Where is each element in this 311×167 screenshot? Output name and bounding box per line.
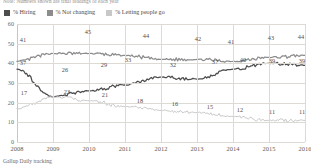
gridline-vertical — [269, 24, 270, 142]
data-point-label: 44 — [298, 34, 304, 40]
data-point-label: 29 — [101, 62, 107, 68]
y-axis-tick-label: 20 — [1, 100, 14, 106]
source-note: Gallup Daily tracking — [3, 157, 52, 165]
x-axis-tick-label: 2016 — [290, 145, 311, 152]
legend-swatch-hiring — [4, 10, 10, 16]
data-point-label: 17 — [21, 90, 27, 96]
data-point-label: 42 — [195, 36, 201, 42]
legend-label-not-changing: % Not changing — [56, 9, 96, 16]
legend-item-hiring: % Hiring — [4, 9, 36, 16]
data-point-label: 39 — [299, 58, 305, 64]
y-axis-tick-label: 30 — [1, 80, 14, 86]
plot-area — [17, 24, 305, 142]
gridline-horizontal — [17, 142, 305, 143]
y-axis-tick-label: 10 — [1, 119, 14, 125]
gridline-vertical — [125, 24, 126, 142]
gridline-vertical — [305, 24, 306, 142]
data-point-label: 37 — [212, 59, 218, 65]
x-axis-tick-label: 2011 — [110, 145, 140, 152]
data-point-label: 26 — [62, 67, 68, 73]
data-point-label: 16 — [172, 101, 178, 107]
legend-item-letting-go: % Letting people go — [106, 9, 165, 16]
y-axis-tick-label: 60 — [1, 21, 14, 27]
data-point-label: 44 — [143, 33, 149, 39]
data-point-label: 37 — [20, 60, 26, 66]
y-axis-tick-label: 50 — [1, 41, 14, 47]
data-point-label: 11 — [299, 109, 305, 115]
data-point-label: 39 — [269, 58, 275, 64]
chart-container: Note: Numbers shown are final readings o… — [0, 0, 311, 167]
chart-note: Note: Numbers shown are final readings o… — [3, 0, 303, 5]
legend-label-letting-go: % Letting people go — [115, 9, 165, 16]
x-axis-tick-label: 2013 — [182, 145, 212, 152]
x-axis-tick-label: 2012 — [146, 145, 176, 152]
gridline-vertical — [53, 24, 54, 142]
gridline-vertical — [161, 24, 162, 142]
data-point-label: 41 — [228, 39, 234, 45]
data-point-label: 12 — [237, 107, 243, 113]
x-axis-tick-label: 2014 — [218, 145, 248, 152]
data-point-label: 18 — [137, 98, 143, 104]
chart-legend: % Hiring % Not changing % Letting people… — [4, 8, 176, 17]
data-point-label: 33 — [125, 57, 131, 63]
legend-swatch-letting-go — [106, 10, 112, 16]
data-point-label: 41 — [20, 37, 26, 43]
data-point-label: 23 — [64, 89, 70, 95]
y-axis-tick-label: 40 — [1, 60, 14, 66]
legend-swatch-not-changing — [47, 10, 53, 16]
data-point-label: 40 — [240, 57, 246, 63]
data-point-label: 21 — [102, 92, 108, 98]
data-point-label: 32 — [170, 62, 176, 68]
data-point-label: 43 — [268, 35, 274, 41]
x-axis-tick-label: 2008 — [2, 145, 32, 152]
x-axis-tick-label: 2009 — [38, 145, 68, 152]
data-point-label: 15 — [207, 104, 213, 110]
legend-label-hiring: % Hiring — [13, 9, 36, 16]
data-point-label: 45 — [85, 29, 91, 35]
gridline-vertical — [89, 24, 90, 142]
x-axis-tick-label: 2015 — [254, 145, 284, 152]
legend-item-not-changing: % Not changing — [47, 9, 96, 16]
data-point-label: 11 — [269, 109, 275, 115]
x-axis-tick-label: 2010 — [74, 145, 104, 152]
